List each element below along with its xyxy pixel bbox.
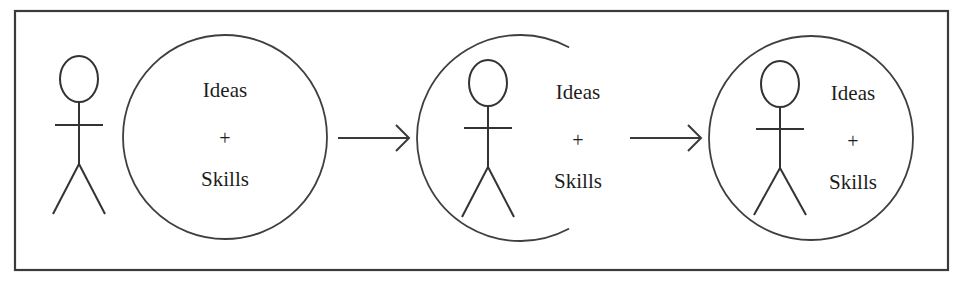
stage-3-label-ideas: Ideas — [831, 81, 875, 105]
diagram-canvas: Ideas + Skills Ideas + Skills — [0, 0, 966, 283]
stage-2-stick-figure — [462, 60, 514, 217]
stick-figure-left-leg — [754, 168, 780, 215]
stick-figure-left-leg — [462, 167, 488, 217]
stage-2-group: Ideas + Skills — [417, 35, 602, 241]
stage-1-label-skills: Skills — [201, 167, 249, 191]
stage-3-label-plus: + — [847, 130, 858, 152]
stick-figure-right-leg — [79, 164, 105, 214]
stage-2-label-ideas: Ideas — [556, 80, 600, 104]
stick-figure-left-leg — [53, 164, 79, 214]
stick-figure-head-icon — [469, 60, 507, 106]
stage-3-stick-figure — [754, 61, 806, 215]
stage-1-label-ideas: Ideas — [203, 78, 247, 102]
outer-border — [15, 11, 948, 270]
arrow-stage1-to-stage2 — [338, 125, 409, 151]
stick-figure-right-leg — [488, 167, 514, 217]
stage-2-open-arc — [417, 35, 568, 241]
stage-3-circle — [709, 36, 913, 240]
stage-3-group: Ideas + Skills — [709, 36, 913, 240]
ideas-skills-progression-diagram: Ideas + Skills Ideas + Skills — [0, 0, 966, 283]
stage-1-label-plus: + — [219, 127, 230, 149]
stick-figure-right-leg — [780, 168, 806, 215]
stage-2-label-skills: Skills — [554, 169, 602, 193]
arrow-stage2-to-stage3 — [630, 125, 701, 151]
stage-3-label-skills: Skills — [829, 170, 877, 194]
stick-figure-head-icon — [60, 56, 98, 102]
stage-2-label-plus: + — [572, 129, 583, 151]
stage-1-group: Ideas + Skills — [53, 35, 327, 239]
stage-1-stick-figure — [53, 56, 105, 214]
stick-figure-head-icon — [761, 61, 799, 107]
